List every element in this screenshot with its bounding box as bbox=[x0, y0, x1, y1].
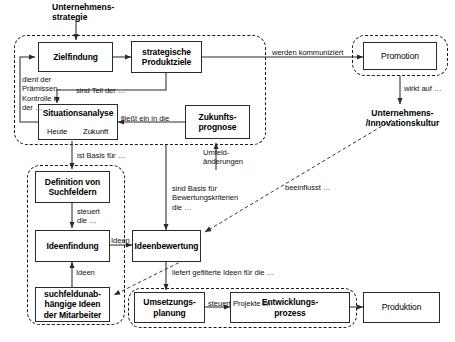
box-promotion-label: Promotion bbox=[379, 51, 421, 61]
box-produktion-label: Produktion bbox=[380, 302, 424, 312]
edge-label-beeinflusst: beeinflusst … bbox=[285, 183, 330, 192]
edge-label-dient-der-praemissen-kontrolle: dient der Prämissen- Kontrolle in der … bbox=[22, 75, 60, 112]
box-zukunftsprognose[interactable]: Zukunfts- prognose bbox=[185, 105, 250, 139]
edge-label-ist-basis-fuer: ist Basis für … bbox=[77, 151, 125, 160]
box-strategische-produktziele-label: strategische Produktziele bbox=[140, 47, 193, 67]
edge-label-sind-teil-der: sind Teil der … bbox=[76, 86, 125, 95]
edge-label-ideen-findung-bewertung: Ideen bbox=[111, 236, 130, 245]
edge-label-umfeldaenderungen: Umfeld- änderungen bbox=[203, 148, 243, 167]
box-suchfeldunabhaengige-ideen-label: suchfeldunab- hängige Ideen der Mitarbei… bbox=[42, 289, 104, 319]
box-definition-von-suchfeldern-label: Definition von Suchfeldern bbox=[43, 177, 102, 197]
edge-label-werden-kommuniziert: werden kommuniziert bbox=[272, 48, 343, 57]
edge-label-wirkt-auf: wirkt auf … bbox=[404, 84, 441, 93]
edge-label-steuert-die: steuert die … bbox=[77, 207, 100, 226]
box-zielfindung[interactable]: Zielfindung bbox=[38, 42, 113, 72]
box-zukunftsprognose-label: Zukunfts- prognose bbox=[197, 112, 239, 132]
box-suchfeldunabhaengige-ideen[interactable]: suchfeldunab- hängige Ideen der Mitarbei… bbox=[35, 287, 110, 322]
edge-label-sind-basis-fuer-bewertungskriterien: sind Basis für Bewertungskriterien die … bbox=[172, 184, 238, 212]
box-produktion[interactable]: Produktion bbox=[363, 292, 440, 323]
box-situationsanalyse-sub-zukunft: Zukunft bbox=[83, 127, 108, 136]
edge-label-liefert-gefilterte-ideen: liefert gefilterte Ideen für die … bbox=[172, 268, 274, 277]
box-promotion[interactable]: Promotion bbox=[363, 42, 437, 70]
box-ideenbewertung-label: Ideenbewertung bbox=[133, 241, 201, 251]
box-zielfindung-label: Zielfindung bbox=[51, 52, 100, 62]
box-situationsanalyse-sub-heute: Heute bbox=[47, 127, 67, 136]
box-umsetzungsplanung-label: Umsetzungs- planung bbox=[141, 297, 197, 317]
diagram-canvas: Unternehmens- strategie Zielfindung stra… bbox=[0, 0, 455, 342]
box-ideenfindung[interactable]: Ideenfindung bbox=[35, 230, 110, 262]
box-definition-von-suchfeldern[interactable]: Definition von Suchfeldern bbox=[35, 171, 110, 203]
box-strategische-produktziele[interactable]: strategische Produktziele bbox=[131, 41, 202, 73]
label-unternehmens-innovationskultur: Unternehmens- /Innovationskultur bbox=[350, 108, 455, 128]
edge-label-steuert-projekte-im: steuert Projekte im bbox=[208, 299, 270, 308]
entry-label-unternehmensstrategie: Unternehmens- strategie bbox=[52, 2, 172, 22]
edge-label-fliesst-ein-in-die: fließt ein in die bbox=[121, 114, 169, 123]
box-ideenbewertung[interactable]: Ideenbewertung bbox=[132, 230, 201, 262]
box-umsetzungsplanung[interactable]: Umsetzungs- planung bbox=[134, 292, 205, 323]
box-ideenfindung-label: Ideenfindung bbox=[44, 241, 100, 251]
edge-label-ideen-mitarbeiter: Ideen bbox=[76, 268, 95, 277]
